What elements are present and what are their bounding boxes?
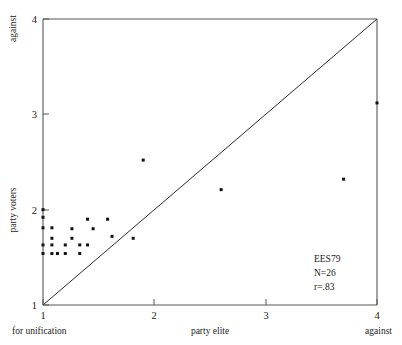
data-point	[86, 218, 89, 221]
data-point	[70, 237, 73, 240]
data-point	[50, 237, 53, 240]
x-tick-label-1: 1	[40, 310, 45, 321]
data-point	[64, 243, 67, 246]
data-point	[132, 237, 135, 240]
y-axis-title: party voters	[8, 187, 18, 232]
data-point	[142, 159, 145, 162]
x-axis-high-anchor-label: against	[365, 326, 392, 336]
data-point	[42, 226, 45, 229]
y-tick-label-1: 1	[32, 300, 37, 311]
data-point	[106, 218, 109, 221]
y-axis-high-anchor-label: against	[8, 15, 18, 42]
y-axis-ticks	[43, 19, 49, 305]
data-point	[78, 252, 81, 255]
data-point	[56, 252, 59, 255]
y-tick-label-4: 4	[32, 14, 38, 25]
x-tick-label-4: 4	[374, 310, 380, 321]
data-point	[50, 252, 53, 255]
x-axis-ticks	[43, 299, 377, 305]
data-point	[78, 243, 81, 246]
dataset-label: EES79	[314, 254, 341, 264]
data-point	[42, 208, 45, 211]
data-point	[50, 243, 53, 246]
data-point	[111, 235, 114, 238]
data-point	[220, 188, 223, 191]
data-point	[376, 101, 379, 104]
data-point	[70, 227, 73, 230]
data-points-layer	[42, 101, 379, 255]
data-point	[42, 243, 45, 246]
x-axis-title: party elite	[191, 326, 229, 336]
sample-size-label: N=26	[314, 268, 336, 278]
data-point	[42, 252, 45, 255]
x-tick-label-2: 2	[151, 310, 156, 321]
y-tick-label-2: 2	[32, 205, 37, 216]
data-point	[92, 227, 95, 230]
x-axis-low-anchor-label: for unification	[12, 326, 67, 336]
data-point	[42, 216, 45, 219]
annotation-block: EES79 N=26 r=.83	[314, 254, 341, 292]
scatter-plot-canvas: 4 3 2 1 1 2 3 4 party elite party voters…	[0, 0, 402, 345]
x-tick-label-3: 3	[263, 310, 268, 321]
y-tick-label-3: 3	[32, 109, 37, 120]
data-point	[86, 243, 89, 246]
correlation-label: r=.83	[314, 282, 335, 292]
data-point	[50, 226, 53, 229]
data-point	[64, 252, 67, 255]
data-point	[342, 178, 345, 181]
scatter-plot-figure: 4 3 2 1 1 2 3 4 party elite party voters…	[0, 0, 402, 345]
